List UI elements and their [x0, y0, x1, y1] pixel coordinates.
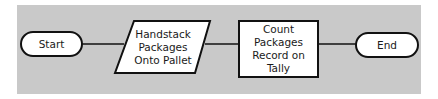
start-text: Start: [39, 38, 65, 51]
count-line-2: Packages: [254, 36, 303, 49]
count-line-1: Count: [263, 23, 294, 36]
handstack-line-1: Handstack: [135, 28, 191, 41]
node-count-label: Count Packages Record on Tally: [239, 21, 318, 77]
end-text: End: [377, 39, 397, 52]
count-line-3: Record on: [252, 49, 305, 62]
count-line-4: Tally: [267, 62, 290, 75]
node-end-label: End: [356, 33, 418, 57]
node-start-label: Start: [21, 32, 82, 56]
handstack-line-3: Onto Pallet: [134, 54, 192, 67]
handstack-line-2: Packages: [139, 41, 188, 54]
node-handstack-label: Handstack Packages Onto Pallet: [125, 24, 201, 70]
